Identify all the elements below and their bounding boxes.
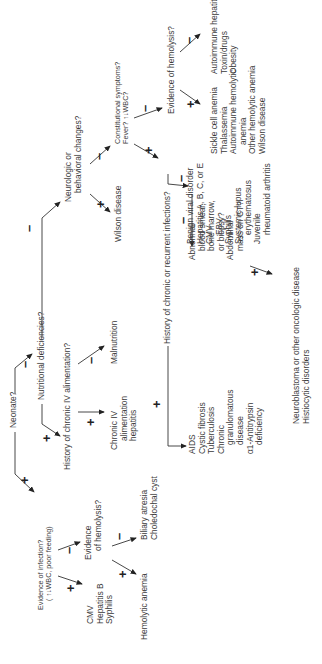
minus-sign: – [22,225,35,232]
iv-positive-list: Chronic IV alimentation hepatitis [110,396,139,450]
minus-sign: – [18,361,31,368]
minus-sign: – [138,105,151,112]
chronic-infections-positive-list: AIDS Cystic fibrosis Tuberculosis Chroni… [188,390,265,454]
infection-question: Evidence of infection? ( ↑↓WBC, poor fee… [37,526,54,610]
minus-sign: – [62,547,75,554]
plus-sign: + [116,570,129,578]
plus-sign: + [84,418,97,426]
hemolytic-anemia: Hemolytic anemia [140,573,150,640]
iv-alimentation-question: History of chronic IV alimentation? [63,343,73,470]
oncologic-list: Neuroblastoma or other oncologic disease… [292,267,311,424]
minus-sign: – [182,37,195,44]
abnormal-negative-diagnoses-list: Benign viral disorderHepatitis A, B, C, … [186,163,272,244]
malnutrition: Malnutrition [110,321,120,364]
hemolysis-older-negative-list: Autoimmune hepatitis Toxin/drugs Obesity [210,0,239,74]
hemolysis-neonate-negative-list: Biliary atresia Choledochal cyst [140,476,159,540]
minus-sign: – [112,533,125,540]
plus-sign: + [40,434,53,442]
hemolysis-neonate-question: Evidence of hemolysis? [84,500,103,560]
plus-sign: + [142,146,155,154]
wilson-disease: Wilson disease [114,186,124,242]
minus-sign: – [92,153,105,160]
plus-sign: + [150,400,163,408]
chronic-infections-question: History of chronic or recurrent infectio… [163,191,173,344]
neurologic-question: Neurologic or behavioral changes? [64,116,83,202]
infection-positive-list: CMV Hepatitis B Syphilis [86,584,115,625]
hemolysis-older-question: Evidence of hemolysis? [167,26,177,114]
neonate-question: Neonate? [9,392,19,428]
hepatomegaly-flowchart: Neonate? + – Evidence of infection? ( ↑↓… [0,0,322,664]
plus-sign: + [64,584,77,592]
constitutional-question: Constitutional symptoms? Fever? ↑↓WBC? [114,62,131,144]
hemolysis-older-positive-list: Sickle cell anemia Thalassemia Autoimmun… [210,66,268,154]
minus-sign: – [84,357,97,364]
plus-sign: + [94,200,107,208]
plus-sign: + [18,476,31,484]
plus-sign: + [248,268,261,276]
nutritional-question: Nutritional deficiencies? [37,312,47,400]
plus-sign: + [184,100,197,108]
diagnosis-item: rheumatoid arthritis [263,163,273,244]
